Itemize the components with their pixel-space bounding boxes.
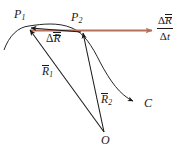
overbar-group: R xyxy=(101,94,108,106)
fraction-bar xyxy=(157,28,173,29)
point-label-p1: P1 xyxy=(14,8,25,22)
fraction-denominator-main: t xyxy=(167,30,170,42)
average-velocity-fraction-label: ΔR Δt xyxy=(157,15,173,42)
point-label-origin-main: O xyxy=(101,133,110,147)
curve-label-c: C xyxy=(144,97,152,109)
position-vector-2-label-sub: 2 xyxy=(108,98,112,107)
displacement-vector-label: ΔR xyxy=(46,33,60,45)
overbar-line-1 xyxy=(42,65,49,66)
position-vector-1-label: R1 xyxy=(42,66,53,79)
overbar-group: R xyxy=(165,15,172,26)
position-vector-1-label-main: R xyxy=(42,65,49,77)
delta-symbol-denominator: Δ xyxy=(160,30,167,42)
fraction-denominator: Δt xyxy=(157,30,173,42)
point-label-p2: P2 xyxy=(71,11,82,25)
overbar-group: R xyxy=(42,66,49,78)
point-label-p2-main: P xyxy=(71,10,78,24)
overbar-line-1 xyxy=(101,93,108,94)
position-vector-2-label: R2 xyxy=(101,94,112,107)
curve-label-c-main: C xyxy=(144,96,152,110)
overbar-group: R xyxy=(53,33,60,45)
trajectory-curve-C xyxy=(4,24,133,101)
point-label-p1-sub: 1 xyxy=(22,13,26,22)
point-label-p2-sub: 2 xyxy=(79,16,83,25)
vector-diagram-figure: P1 P2 O C ΔR R1 R2 ΔR Δt xyxy=(0,0,186,156)
point-label-p1-main: P xyxy=(14,7,21,21)
point-label-origin: O xyxy=(101,134,110,146)
overbar-line-2 xyxy=(53,35,60,36)
overbar-line-2 xyxy=(165,17,172,18)
overbar-line-1 xyxy=(165,14,172,15)
position-vector-1-label-sub: 1 xyxy=(49,70,53,79)
overbar-line-1 xyxy=(53,32,60,33)
fraction-numerator: ΔR xyxy=(157,15,173,27)
position-vector-2-label-main: R xyxy=(101,93,108,105)
